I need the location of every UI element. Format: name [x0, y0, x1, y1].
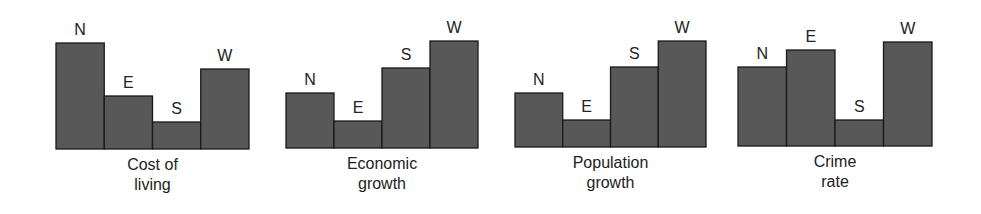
- bar-chart-economic-growth: NESWEconomicgrowth: [286, 19, 478, 192]
- bar-n: [738, 67, 787, 146]
- bar-w: [430, 41, 478, 148]
- chart-caption-line: growth: [586, 174, 634, 191]
- bar-label: E: [581, 98, 592, 115]
- bar-label: N: [304, 71, 316, 88]
- bar-label: E: [123, 74, 134, 91]
- chart-caption-line: Crime: [814, 153, 857, 170]
- bar-s: [835, 120, 884, 146]
- bar-label: S: [854, 98, 865, 115]
- bar-n: [56, 43, 104, 149]
- chart-caption-line: rate: [821, 173, 849, 190]
- bar-s: [611, 67, 659, 147]
- bar-label: W: [900, 20, 916, 37]
- bar-label: E: [805, 28, 816, 45]
- bar-w: [884, 42, 933, 146]
- bar-label: S: [401, 46, 412, 63]
- bar-n: [286, 93, 334, 148]
- bar-label: S: [629, 45, 640, 62]
- charts-canvas: NESWCost oflivingNESWEconomicgrowthNESWP…: [0, 0, 981, 214]
- bar-label: E: [353, 99, 364, 116]
- bar-label: W: [446, 19, 462, 36]
- bar-e: [563, 120, 611, 147]
- chart-caption-line: living: [134, 176, 170, 193]
- bar-s: [382, 68, 430, 148]
- chart-caption-line: growth: [358, 175, 406, 192]
- bar-e: [104, 96, 152, 149]
- bar-e: [334, 121, 382, 148]
- chart-caption-line: Population: [573, 154, 649, 171]
- bar-chart-crime-rate: NESWCrimerate: [738, 20, 932, 190]
- bar-chart-population-growth: NESWPopulationgrowth: [515, 19, 706, 191]
- bar-label: N: [756, 45, 768, 62]
- bar-label: N: [533, 71, 545, 88]
- chart-caption-line: Cost of: [127, 156, 178, 173]
- bar-label: W: [217, 47, 233, 64]
- bar-label: S: [171, 100, 182, 117]
- bar-e: [787, 50, 836, 146]
- bar-chart-cost-of-living: NESWCost ofliving: [56, 21, 249, 193]
- bar-w: [201, 69, 249, 149]
- bar-w: [658, 41, 706, 147]
- bar-label: N: [74, 21, 86, 38]
- bar-s: [153, 122, 201, 149]
- chart-caption-line: Economic: [347, 155, 417, 172]
- bar-n: [515, 93, 563, 147]
- regional-bar-charts: NESWCost oflivingNESWEconomicgrowthNESWP…: [0, 0, 981, 214]
- bar-label: W: [675, 19, 691, 36]
